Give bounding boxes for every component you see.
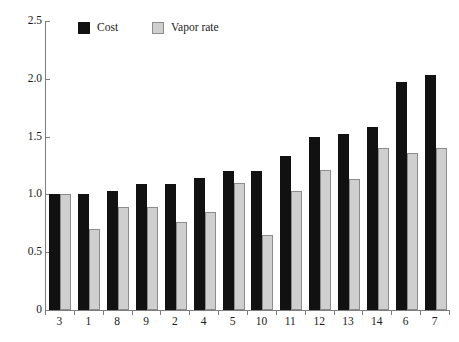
x-axis-tick-label: 4 [201,316,207,328]
bar-group [165,21,187,310]
x-axis-tick-label: 12 [313,316,325,328]
x-axis-tick-label: 13 [342,316,354,328]
legend-entry-vapor-rate: Vapor rate [152,22,219,34]
x-axis-tick-label: 6 [403,316,409,328]
bar-cost [165,184,176,310]
bar-vapor-rate [60,194,71,310]
bar-cost [425,75,436,310]
x-axis-tick-label: 9 [143,316,149,328]
bar-vapor-rate [234,183,245,310]
legend-swatch-vapor-rate-icon [152,22,164,34]
x-axis-tick-label: 11 [285,316,296,328]
bar-vapor-rate [378,148,389,310]
bar-cost [136,184,147,310]
bar-cost [338,134,349,310]
legend-label-vapor-rate: Vapor rate [171,22,219,34]
x-axis-tick-label: 5 [230,316,236,328]
chart-legend: Cost Vapor rate [78,22,219,34]
bar-group [78,21,100,310]
x-axis-tick [391,310,392,315]
bar-chart: 00.51.01.52.02.5 3189245101112131467 Cos… [0,0,459,342]
x-axis-tick-label: 8 [114,316,120,328]
legend-entry-cost: Cost [78,22,118,34]
bar-vapor-rate [436,148,447,310]
x-axis-tick [189,310,190,315]
bar-group [251,21,273,310]
bar-vapor-rate [147,207,158,310]
bar-group [338,21,360,310]
plot-area [45,21,449,310]
bar-cost [251,171,262,310]
bar-group [367,21,389,310]
bar-vapor-rate [176,222,187,310]
bar-vapor-rate [262,235,273,310]
y-axis-tick-label: 1.0 [2,189,42,201]
x-axis-tick [362,310,363,315]
bar-group [396,21,418,310]
x-axis-tick [45,310,46,315]
x-axis-tick [420,310,421,315]
x-axis-tick [74,310,75,315]
bar-cost [367,127,378,310]
bar-group [223,21,245,310]
x-axis-tick [449,310,450,315]
bar-group [194,21,216,310]
x-axis-tick [103,310,104,315]
bar-vapor-rate [118,207,129,310]
bar-vapor-rate [407,153,418,310]
bar-group [309,21,331,310]
x-axis-tick [334,310,335,315]
legend-swatch-cost-icon [78,22,90,34]
bar-group [107,21,129,310]
bar-vapor-rate [291,191,302,310]
bar-cost [107,191,118,310]
y-axis-tick-label: 2.0 [2,73,42,85]
x-axis-tick-label: 3 [57,316,63,328]
bar-vapor-rate [349,179,360,310]
y-axis-tick-label: 0 [2,304,42,316]
x-axis-tick-label: 1 [85,316,91,328]
y-axis-tick-label: 2.5 [2,15,42,27]
x-axis-tick-label: 10 [256,316,268,328]
bar-cost [78,194,89,310]
y-axis-tick-labels: 00.51.01.52.02.5 [0,0,42,342]
bar-cost [280,156,291,310]
x-axis-tick-label: 2 [172,316,178,328]
y-axis-tick-label: 1.5 [2,131,42,143]
bar-vapor-rate [205,212,216,310]
x-axis-tick-label: 7 [432,316,438,328]
x-axis-tick [160,310,161,315]
bar-group [136,21,158,310]
x-axis-tick [305,310,306,315]
x-axis-tick [132,310,133,315]
bar-cost [223,171,234,310]
x-axis-tick [247,310,248,315]
bar-cost [396,82,407,310]
bar-cost [194,178,205,310]
legend-label-cost: Cost [97,22,118,34]
bar-group [280,21,302,310]
x-axis-tick [218,310,219,315]
bar-vapor-rate [320,170,331,310]
x-axis-tick-label: 14 [371,316,383,328]
bar-group [425,21,447,310]
x-axis-tick [276,310,277,315]
bar-vapor-rate [89,229,100,310]
bar-cost [49,194,60,310]
y-axis-tick-label: 0.5 [2,246,42,258]
bar-group [49,21,71,310]
bar-cost [309,137,320,310]
